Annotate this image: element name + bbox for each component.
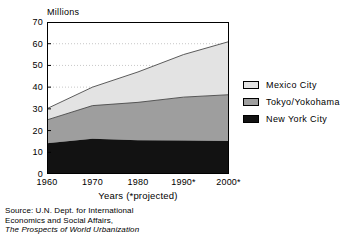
- y-axis-title: Millions: [47, 7, 79, 17]
- legend-swatch-icon: [243, 115, 259, 123]
- source-note: Source: U.N. Dept. for International Eco…: [5, 206, 235, 235]
- y-axis-tick-labels: 70 60 50 40 30 20 10 0: [13, 22, 43, 174]
- legend-label: Tokyo/Yokohama: [266, 97, 340, 107]
- plot-svg: [47, 22, 229, 174]
- source-line-2: Economics and Social Affairs,: [5, 216, 235, 226]
- y-tick-label: 70: [17, 18, 43, 27]
- legend-swatch-icon: [243, 98, 259, 106]
- y-tick-label: 60: [17, 40, 43, 49]
- x-tick-label: 2000*: [207, 177, 251, 187]
- legend-swatch-icon: [243, 81, 259, 89]
- x-axis-title: Years (*projected): [47, 190, 229, 201]
- x-tick-label: 1960: [25, 177, 69, 187]
- legend-item-tokyo-yokohama: Tokyo/Yokohama: [243, 93, 359, 110]
- legend-label: New York City: [266, 114, 327, 124]
- source-line-1: Source: U.N. Dept. for International: [5, 206, 235, 216]
- legend-label: Mexico City: [266, 80, 317, 90]
- y-tick-label: 30: [17, 105, 43, 114]
- plot-area: [47, 22, 229, 174]
- y-tick-label: 50: [17, 61, 43, 70]
- y-tick-label: 10: [17, 148, 43, 157]
- x-axis-tick-labels: 1960 1970 1980 1990* 2000*: [47, 177, 229, 189]
- series-area-new-york-city: [47, 139, 229, 174]
- source-line-3: The Prospects of World Urbanization: [5, 225, 235, 235]
- y-tick-label: 40: [17, 83, 43, 92]
- stacked-area-chart-figure: Millions 70 60 50 40 30 20 10 0: [0, 0, 362, 237]
- legend-item-new-york-city: New York City: [243, 110, 359, 127]
- x-tick-label: 1970: [71, 177, 115, 187]
- y-tick-label: 20: [17, 127, 43, 136]
- x-tick-label: 1980: [116, 177, 160, 187]
- x-tick-label: 1990*: [162, 177, 206, 187]
- chart-legend: Mexico City Tokyo/Yokohama New York City: [243, 76, 359, 127]
- legend-item-mexico-city: Mexico City: [243, 76, 359, 93]
